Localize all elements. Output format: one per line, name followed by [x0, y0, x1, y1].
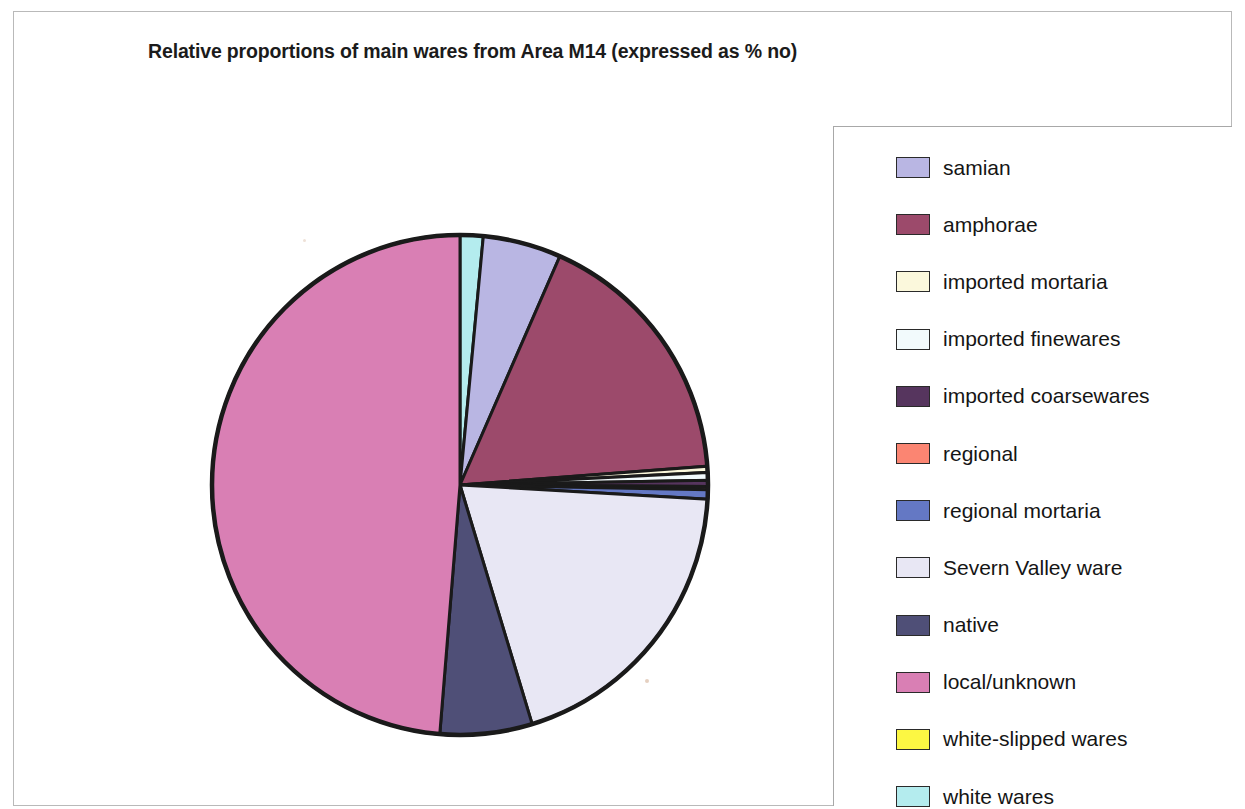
legend-item[interactable]: native	[896, 597, 1226, 654]
legend-item-label: regional	[943, 442, 1018, 466]
scan-speck	[645, 679, 649, 683]
legend-item-label: imported coarsewares	[943, 384, 1150, 408]
legend-swatch-icon	[896, 329, 930, 350]
legend: samianamphoraeimported mortariaimported …	[833, 126, 1232, 806]
legend-item-label: Severn Valley ware	[943, 556, 1122, 580]
legend-item-label: white-slipped wares	[943, 727, 1127, 751]
legend-swatch-icon	[896, 386, 930, 407]
legend-items: samianamphoraeimported mortariaimported …	[896, 139, 1226, 809]
legend-item-label: amphorae	[943, 213, 1038, 237]
legend-item[interactable]: local/unknown	[896, 654, 1226, 711]
legend-swatch-icon	[896, 500, 930, 521]
pie-slice-group	[212, 235, 708, 735]
legend-item-label: samian	[943, 156, 1011, 180]
legend-item-label: regional mortaria	[943, 499, 1101, 523]
legend-item-label: white wares	[943, 785, 1054, 809]
legend-swatch-icon	[896, 729, 930, 750]
chart-title: Relative proportions of main wares from …	[148, 40, 797, 63]
legend-item-label: imported finewares	[943, 327, 1120, 351]
legend-item[interactable]: white-slipped wares	[896, 711, 1226, 768]
pie-chart-svg	[196, 228, 716, 758]
legend-item[interactable]: amphorae	[896, 196, 1226, 253]
legend-item-label: imported mortaria	[943, 270, 1108, 294]
legend-item[interactable]: regional	[896, 425, 1226, 482]
legend-swatch-icon	[896, 672, 930, 693]
legend-swatch-icon	[896, 443, 930, 464]
legend-swatch-icon	[896, 214, 930, 235]
legend-swatch-icon	[896, 157, 930, 178]
scan-speck	[303, 239, 306, 242]
legend-swatch-icon	[896, 786, 930, 807]
scanned-page: Relative proportions of main wares from …	[0, 0, 1245, 809]
legend-item[interactable]: samian	[896, 139, 1226, 196]
legend-item[interactable]: imported finewares	[896, 311, 1226, 368]
page-frame-top	[13, 11, 1232, 12]
legend-swatch-icon	[896, 615, 930, 636]
legend-item[interactable]: imported coarsewares	[896, 368, 1226, 425]
legend-item[interactable]: white wares	[896, 768, 1226, 809]
legend-item-label: native	[943, 613, 999, 637]
page-frame-left	[13, 11, 14, 806]
pie-slice[interactable]	[212, 235, 460, 734]
legend-item-label: local/unknown	[943, 670, 1076, 694]
legend-item[interactable]: Severn Valley ware	[896, 539, 1226, 596]
legend-item[interactable]: imported mortaria	[896, 253, 1226, 310]
legend-swatch-icon	[896, 271, 930, 292]
legend-swatch-icon	[896, 557, 930, 578]
pie-chart	[196, 228, 716, 758]
legend-item[interactable]: regional mortaria	[896, 482, 1226, 539]
